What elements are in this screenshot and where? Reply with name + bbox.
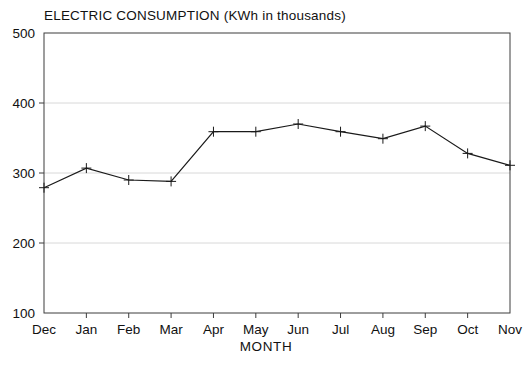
x-tick-label: Feb xyxy=(117,322,140,337)
chart-container: ELECTRIC CONSUMPTION (KWh in thousands) … xyxy=(0,0,532,365)
x-axis-title: MONTH xyxy=(0,339,532,354)
data-point-marker xyxy=(378,134,388,144)
y-tick-label: 500 xyxy=(12,26,35,41)
y-tick-label: 200 xyxy=(12,236,35,251)
chart-plot-area: 100200300400500DecJanFebMarAprMayJunJulA… xyxy=(0,0,532,365)
data-point-marker xyxy=(505,160,515,170)
data-series-line xyxy=(44,124,510,188)
x-tick-label: Jul xyxy=(332,322,349,337)
x-tick-label: Mar xyxy=(159,322,183,337)
x-tick-label: Oct xyxy=(457,322,478,337)
data-point-marker xyxy=(124,175,134,185)
data-point-marker xyxy=(293,119,303,129)
x-tick-label: May xyxy=(243,322,269,337)
x-tick-label: Nov xyxy=(498,322,522,337)
x-tick-label: Aug xyxy=(371,322,395,337)
data-point-marker xyxy=(420,121,430,131)
y-tick-label: 400 xyxy=(12,96,35,111)
x-tick-label: Dec xyxy=(32,322,56,337)
x-tick-label: Sep xyxy=(413,322,437,337)
x-tick-label: Apr xyxy=(203,322,225,337)
x-tick-label: Jun xyxy=(287,322,309,337)
data-point-marker xyxy=(336,127,346,137)
data-point-marker xyxy=(251,127,261,137)
y-tick-label: 100 xyxy=(12,306,35,321)
data-point-marker xyxy=(39,183,49,193)
data-point-marker xyxy=(81,163,91,173)
x-tick-label: Jan xyxy=(75,322,97,337)
data-point-marker xyxy=(463,148,473,158)
y-tick-label: 300 xyxy=(12,166,35,181)
